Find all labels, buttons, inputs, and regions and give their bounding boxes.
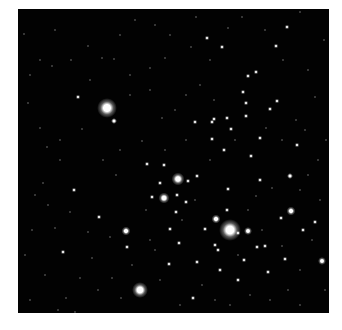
star [244,101,249,106]
faint-star [145,209,148,212]
faint-star [34,194,37,197]
faint-star [234,139,237,142]
star [186,179,191,184]
faint-star [295,119,298,122]
faint-star [161,117,164,120]
star [283,257,288,262]
star [191,296,196,301]
faint-star [115,174,118,177]
star [145,162,150,167]
faint-star [154,249,157,252]
faint-star [129,74,132,77]
faint-star [261,229,264,232]
faint-star [29,299,32,302]
star [167,262,172,267]
faint-star [97,289,100,292]
star [158,181,163,186]
faint-star [281,139,284,142]
bright-star [287,207,296,216]
star [266,270,271,275]
faint-star [195,16,198,19]
faint-star [229,304,232,307]
star [203,227,208,232]
star [184,200,189,205]
faint-star [179,304,182,307]
faint-star [59,139,62,142]
faint-star [74,311,77,314]
faint-star [23,33,26,36]
star [193,120,198,125]
faint-star [39,127,42,130]
faint-star [134,19,137,22]
star [150,195,155,200]
star [216,248,221,253]
star [177,241,182,246]
star [125,245,130,250]
faint-star [269,299,272,302]
faint-star [89,79,92,82]
faint-star [237,254,240,257]
faint-star [199,84,202,87]
faint-star [282,59,285,62]
bright-star [287,173,293,179]
star [195,260,200,265]
faint-star [241,16,244,19]
faint-star [29,74,32,77]
star [195,174,200,179]
faint-star [81,128,84,131]
faint-star [317,159,320,162]
faint-star [65,297,68,300]
faint-star [24,254,27,257]
faint-star [271,187,274,190]
faint-star [299,304,302,307]
faint-star [307,174,310,177]
star [263,244,268,249]
faint-star [102,159,105,162]
faint-star [109,236,112,239]
faint-star [46,146,49,149]
faint-star [314,96,317,99]
faint-star [287,289,290,292]
faint-star [87,231,90,234]
faint-star [307,69,310,72]
star [226,187,231,192]
star [218,268,223,273]
star [249,154,254,159]
faint-star [213,99,216,102]
star [175,193,180,198]
faint-star [299,269,302,272]
star [255,245,260,250]
star [97,215,102,220]
faint-star [91,257,94,260]
bright-star [219,219,241,241]
star [241,90,246,95]
faint-star [44,274,47,277]
star [168,227,173,232]
faint-star [164,149,167,152]
faint-star [70,59,73,62]
faint-star [323,39,326,42]
star [220,45,225,50]
star [225,116,230,121]
star [254,70,259,75]
faint-star [57,309,60,312]
star [72,188,77,193]
star [210,137,215,142]
faint-star [42,182,45,185]
star [268,107,273,112]
bright-star [212,215,221,224]
faint-star [120,297,123,300]
faint-star [39,59,42,62]
faint-star [185,94,188,97]
star [61,250,66,255]
star [205,36,210,41]
faint-star [174,109,177,112]
faint-star [31,229,34,232]
star [274,44,279,49]
faint-star [149,89,152,92]
bright-star [97,98,117,118]
faint-star [149,67,152,70]
faint-star [299,11,302,14]
star [258,136,263,141]
faint-star [209,159,212,162]
